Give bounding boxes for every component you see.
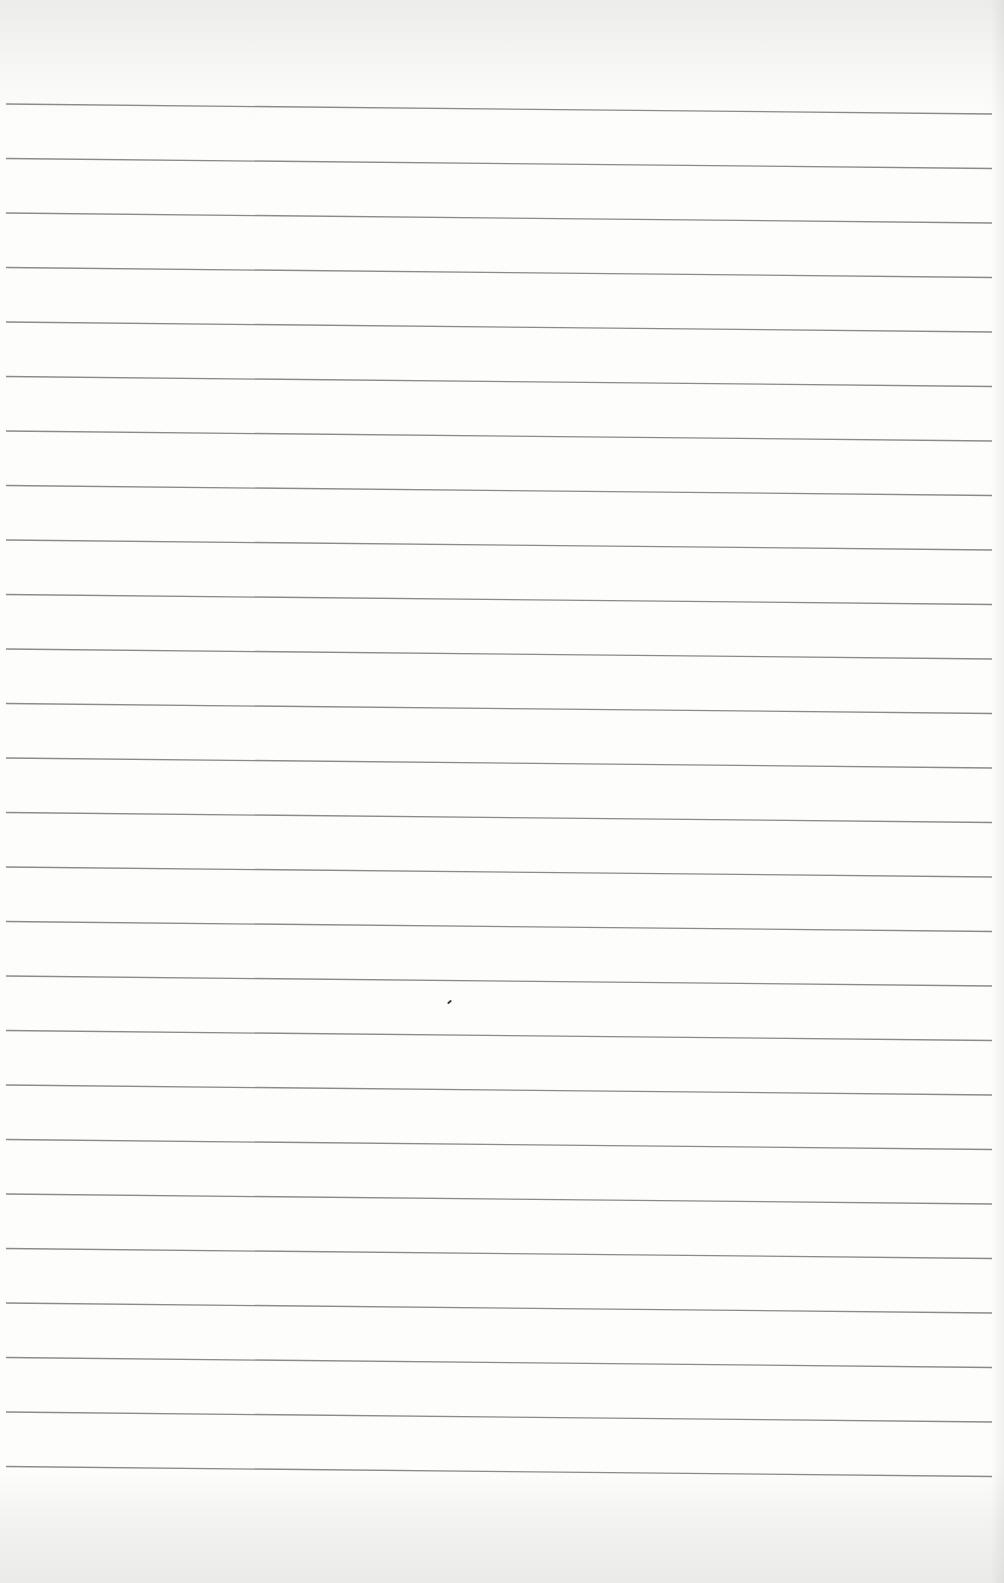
ruled-line <box>6 1140 992 1150</box>
ruled-line <box>6 431 992 441</box>
ruled-line <box>6 1194 992 1204</box>
ruled-line <box>6 213 992 223</box>
ruled-line <box>6 377 992 387</box>
ruled-line <box>6 268 992 278</box>
ruled-line <box>6 540 992 550</box>
ruled-line <box>6 867 992 877</box>
ruled-line <box>6 1303 992 1313</box>
ruled-line <box>6 322 992 332</box>
ruled-line <box>6 595 992 605</box>
ruled-line <box>6 704 992 714</box>
ruled-line <box>6 976 992 986</box>
ruled-line <box>6 159 992 169</box>
ruled-line <box>6 1249 992 1259</box>
ruled-line <box>6 758 992 768</box>
ruled-line <box>6 1467 992 1477</box>
ruled-line <box>6 649 992 659</box>
ruled-lines <box>0 0 1004 1583</box>
ruled-line <box>6 1358 992 1368</box>
ruled-line <box>6 1412 992 1422</box>
ruled-line <box>6 486 992 496</box>
ruled-line <box>6 922 992 932</box>
ruled-line <box>6 104 992 114</box>
ruled-line <box>6 1031 992 1041</box>
ruled-line <box>6 813 992 823</box>
lined-paper-sheet <box>0 0 1004 1583</box>
ruled-line <box>6 1085 992 1095</box>
